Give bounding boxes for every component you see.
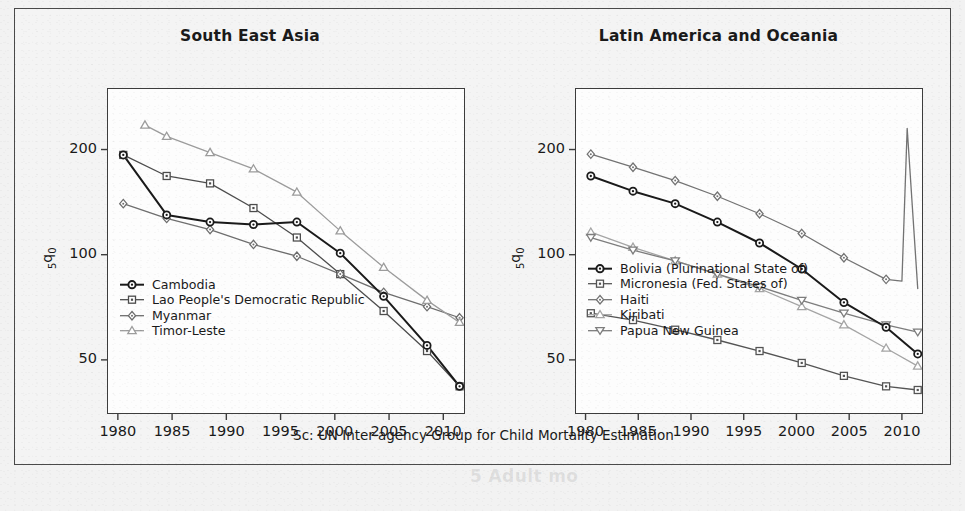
- y-axis-label: 5q0: [39, 247, 58, 269]
- legend-item-label: Timor-Leste: [152, 323, 225, 338]
- legend-item-label: Myanmar: [152, 308, 211, 323]
- plot-svg-right: [485, 9, 952, 466]
- legend-item: Lao People's Democratic Republic: [119, 292, 365, 307]
- y-axis-tick-label: 200: [47, 140, 97, 156]
- y-axis-tick-label: 50: [47, 350, 97, 366]
- page-background: 5 Adult mo South East Asia CambodiaLao P…: [0, 0, 965, 511]
- legend-item: Cambodia: [119, 277, 365, 292]
- y-axis-tick-label: 50: [515, 350, 565, 366]
- legend-item: Haiti: [587, 292, 808, 307]
- legend-item: Kiribati: [587, 307, 808, 322]
- figure-container: South East Asia CambodiaLao People's Dem…: [14, 8, 951, 465]
- legend-item-label: Haiti: [620, 292, 649, 307]
- legend-item: Myanmar: [119, 308, 365, 323]
- legend-item-label: Kiribati: [620, 307, 665, 322]
- legend-item-label: Papua New Guinea: [620, 323, 739, 338]
- y-axis-tick-label: 200: [515, 140, 565, 156]
- legend-marker-icon: [587, 307, 613, 322]
- legend-marker-icon: [119, 292, 145, 307]
- ghost-bleedthrough-text: 5 Adult mo: [470, 466, 578, 486]
- legend-marker-icon: [587, 261, 613, 276]
- legend-item: Timor-Leste: [119, 323, 365, 338]
- legend-item-label: Bolivia (Plurinational State of): [620, 261, 808, 276]
- legend-marker-icon: [587, 276, 613, 291]
- legend-right: Bolivia (Plurinational State of)Micrones…: [587, 261, 808, 338]
- legend-item-label: Micronesia (Fed. States of): [620, 276, 788, 291]
- plot-svg-left: [15, 9, 485, 466]
- chart-panel-latin-america-oceania: Latin America and Oceania Bolivia (Pluri…: [485, 9, 952, 466]
- legend-item: Micronesia (Fed. States of): [587, 276, 808, 291]
- legend-marker-icon: [119, 308, 145, 323]
- legend-marker-icon: [119, 323, 145, 338]
- legend-marker-icon: [587, 292, 613, 307]
- figure-caption: Sc: UN Inter-agency Group for Child Mort…: [15, 427, 952, 443]
- chart-panel-south-east-asia: South East Asia CambodiaLao People's Dem…: [15, 9, 485, 466]
- legend-marker-icon: [587, 323, 613, 338]
- legend-item-label: Lao People's Democratic Republic: [152, 292, 365, 307]
- legend-marker-icon: [119, 277, 145, 292]
- legend-item: Bolivia (Plurinational State of): [587, 261, 808, 276]
- legend-left: CambodiaLao People's Democratic Republic…: [119, 277, 365, 339]
- legend-item-label: Cambodia: [152, 277, 216, 292]
- legend-item: Papua New Guinea: [587, 323, 808, 338]
- y-axis-label: 5q0: [507, 247, 526, 269]
